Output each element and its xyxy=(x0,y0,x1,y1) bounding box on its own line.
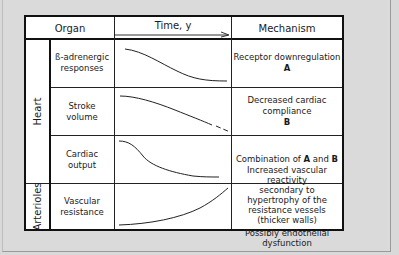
trend-curve-decreasing xyxy=(115,39,231,87)
mechanism-cell: Increased vascular reactivity secondary … xyxy=(232,184,342,229)
organ-label-line1: Vascular xyxy=(64,196,100,207)
mechanism-text: Decreased cardiac compliance xyxy=(232,95,342,117)
organ-label-line2: resistance xyxy=(60,207,104,218)
mechanism-and: and xyxy=(310,154,331,164)
trend-curve-increasing xyxy=(115,184,231,229)
aging-cardiovascular-table: Organ Time, y Mechanism Heart Arterioles… xyxy=(24,15,344,231)
group-heart-label: Heart xyxy=(32,97,43,125)
mechanism-cell: Receptor downregulation A xyxy=(232,39,342,87)
organ-label-line1: Stroke xyxy=(68,101,95,112)
mechanism-tag-b: B xyxy=(332,154,338,164)
header-mechanism-label: Mechanism xyxy=(259,23,316,34)
mechanism-cell: Decreased cardiac compliance B xyxy=(232,88,342,135)
organ-cell: Cardiac output xyxy=(50,136,114,183)
mechanism-text: Combination of A and B xyxy=(236,154,338,165)
trend-curve-decreasing-linear xyxy=(115,88,231,135)
organ-cell: Vascular resistance xyxy=(50,184,114,229)
organ-cell: Stroke volume xyxy=(50,88,114,135)
mechanism-tag: B xyxy=(284,117,290,128)
mechanism-text: Receptor downregulation xyxy=(234,52,341,63)
organ-label-line2: volume xyxy=(66,112,98,123)
mechanism-text: Possibly endothelial dysfunction xyxy=(232,228,342,248)
mechanism-text: Increased vascular reactivity xyxy=(232,165,342,185)
header-organ: Organ xyxy=(26,17,114,39)
organ-label-line1: ß-adrenergic xyxy=(55,52,109,63)
header-time-label: Time, y xyxy=(155,20,192,31)
organ-label-line2: responses xyxy=(60,63,103,74)
organ-label-line1: Cardiac xyxy=(66,149,98,160)
trend-curve-decreasing-steep xyxy=(115,136,231,183)
mechanism-text: secondary to hypertrophy of the xyxy=(232,185,342,205)
header-organ-label: Organ xyxy=(55,23,86,34)
mechanism-prefix: Combination of xyxy=(236,154,304,164)
mechanism-text: resistance vessels (thicker walls) xyxy=(232,205,342,225)
group-heart: Heart xyxy=(26,39,49,183)
group-arterioles: Arterioles xyxy=(26,184,49,229)
mechanism-tag: A xyxy=(284,63,291,74)
organ-cell: ß-adrenergic responses xyxy=(50,39,114,87)
organ-label-line2: output xyxy=(68,160,96,171)
header-mechanism: Mechanism xyxy=(232,17,342,39)
group-arterioles-label: Arterioles xyxy=(32,182,43,230)
